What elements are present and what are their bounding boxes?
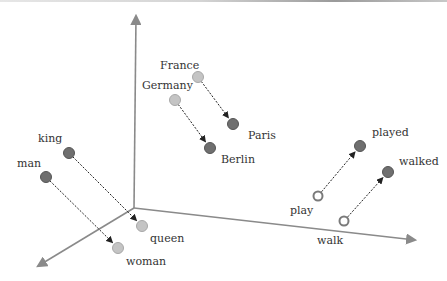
arrow-play-to-played: [322, 152, 356, 192]
node-walked: [383, 167, 394, 178]
word-nodes: [41, 72, 394, 254]
node-play: [314, 192, 323, 201]
label-play: play: [290, 205, 313, 216]
label-woman: woman: [126, 256, 166, 267]
node-woman: [113, 243, 124, 254]
label-paris: Paris: [248, 130, 276, 141]
label-walk: walk: [317, 235, 343, 246]
arrow-france-to-paris: [201, 81, 228, 118]
label-king: king: [38, 133, 62, 144]
label-walked: walked: [399, 156, 439, 167]
node-berlin: [205, 143, 216, 154]
node-germany: [170, 95, 181, 106]
node-man: [41, 172, 52, 183]
label-man: man: [17, 158, 41, 169]
node-king: [64, 148, 75, 159]
label-queen: queen: [150, 233, 184, 244]
embedding-diagram: king man queen woman France Germany Pari…: [0, 0, 447, 281]
arrow-king-to-queen: [73, 157, 137, 221]
diagram-canvas: [0, 0, 447, 281]
arrow-man-to-woman: [50, 181, 113, 243]
label-played: played: [372, 127, 409, 138]
arrow-walk-to-walked: [348, 178, 383, 217]
label-france: France: [160, 60, 199, 71]
node-france: [193, 72, 204, 83]
label-germany: Germany: [142, 80, 193, 91]
node-queen: [137, 221, 148, 232]
label-berlin: Berlin: [221, 154, 255, 165]
vector-arrows: [50, 81, 383, 242]
node-played: [355, 141, 366, 152]
node-paris: [228, 119, 239, 130]
node-walk: [340, 217, 349, 226]
axis-vertical: [134, 16, 136, 208]
arrow-germany-to-berlin: [178, 104, 205, 141]
